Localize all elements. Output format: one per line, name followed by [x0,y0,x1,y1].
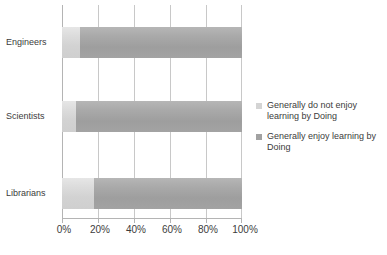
x-ticklabel-20: 20% [90,224,110,236]
chart-legend: Generally do not enjoy learning by Doing… [256,100,384,162]
bar-segment-enjoy[interactable] [80,27,242,58]
bar-row-librarians[interactable] [62,178,242,209]
bar-segment-enjoy[interactable] [76,101,242,132]
category-axis-labels: Engineers Scientists Librarians [0,5,58,218]
x-tick-80 [206,219,207,223]
x-tick-60 [170,219,171,223]
bar-segment-do-not-enjoy[interactable] [62,101,76,132]
x-tick-0 [62,219,63,223]
bar-segment-do-not-enjoy[interactable] [62,27,80,58]
category-label-librarians: Librarians [6,188,64,199]
stacked-bar-chart: Engineers Scientists Librarians [0,0,387,255]
plot-area [62,5,242,218]
x-ticklabel-0: 0% [57,224,71,236]
category-label-engineers: Engineers [6,37,64,48]
bar-segment-enjoy[interactable] [94,178,242,209]
x-tick-20 [98,219,99,223]
bar-row-scientists[interactable] [62,101,242,132]
legend-label: Generally enjoy learning by Doing [267,131,384,153]
x-tick-40 [134,219,135,223]
category-label-scientists: Scientists [6,111,64,122]
bar-row-engineers[interactable] [62,27,242,58]
x-ticklabel-60: 60% [162,224,182,236]
x-axis-tick-labels: 0% 20% 40% 60% 80% 100% [0,224,387,240]
x-tick-100 [241,219,242,223]
legend-item-enjoy[interactable]: Generally enjoy learning by Doing [256,131,384,153]
legend-label-line1: Generally do not enjoy [267,100,357,110]
legend-swatch-icon [256,134,262,140]
legend-swatch-icon [256,103,262,109]
legend-label-line1: Generally enjoy learning [267,131,364,141]
legend-item-do-not-enjoy[interactable]: Generally do not enjoy learning by Doing [256,100,384,122]
legend-label-line2: learning by Doing [267,111,337,121]
bar-segment-do-not-enjoy[interactable] [62,178,94,209]
x-ticklabel-100: 100% [232,224,258,236]
x-ticklabel-40: 40% [126,224,146,236]
legend-label: Generally do not enjoy learning by Doing [267,100,384,122]
x-ticklabel-80: 80% [198,224,218,236]
